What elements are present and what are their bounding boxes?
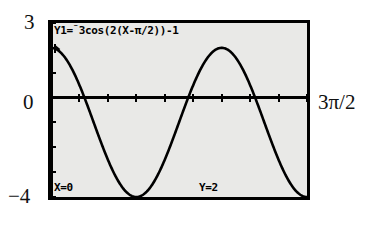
y-axis-max-label: 3 bbox=[24, 12, 35, 33]
graph-viewport[interactable]: Y1=⁻3cos(2(X-π/2))-1 X=0 Y=2 bbox=[51, 23, 307, 197]
trace-x-readout: X=0 bbox=[54, 182, 73, 194]
graph-plot bbox=[51, 23, 307, 197]
equation-body: 3cos(2(X-π/2))-1 bbox=[79, 24, 179, 37]
calculator-screen[interactable]: Y1=⁻3cos(2(X-π/2))-1 X=0 Y=2 bbox=[48, 20, 310, 200]
function-curve bbox=[51, 48, 307, 197]
trace-status-bar: X=0 Y=2 bbox=[51, 182, 307, 195]
calculator-figure: 3 0 −4 3π/2 Y1=⁻3cos(2(X-π/2))-1 bbox=[0, 0, 376, 228]
equation-prefix: Y1= bbox=[54, 24, 73, 37]
equation-line: Y1=⁻3cos(2(X-π/2))-1 bbox=[54, 25, 178, 37]
y-axis-zero-label: 0 bbox=[23, 92, 34, 113]
y-axis-min-label: −4 bbox=[8, 186, 30, 207]
trace-y-readout: Y=2 bbox=[199, 182, 218, 194]
x-axis-max-label: 3π/2 bbox=[318, 92, 355, 113]
trace-cursor-icon bbox=[54, 44, 61, 53]
negation-sign: ⁻ bbox=[73, 22, 79, 33]
